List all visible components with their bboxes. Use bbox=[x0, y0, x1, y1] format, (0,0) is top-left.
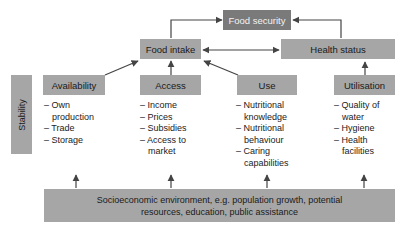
pillar-availability: Availability bbox=[43, 75, 105, 95]
utilisation-list: Quality of water Hygiene Health faciliti… bbox=[334, 100, 396, 158]
list-item: Trade bbox=[44, 123, 114, 135]
list-item: Quality of water bbox=[334, 100, 396, 123]
pillar-use: Use bbox=[237, 75, 297, 95]
pillar-access: Access bbox=[140, 75, 201, 95]
list-item: Nutritional behaviour bbox=[236, 123, 300, 146]
list-item: Storage bbox=[44, 135, 114, 147]
socioeconomic-environment-label: Socioeconomic environment, e.g. populati… bbox=[85, 194, 355, 218]
list-item: Subsidies bbox=[140, 123, 202, 135]
arrow-availability-to-intake bbox=[105, 61, 138, 75]
arrow-health-to-security bbox=[293, 20, 341, 38]
pillar-label: Use bbox=[259, 80, 276, 91]
availability-list: Own production Trade Storage bbox=[44, 100, 114, 146]
list-item: Hygiene bbox=[334, 123, 396, 135]
list-item: Access to market bbox=[140, 135, 202, 158]
stability-label: Stability bbox=[17, 99, 27, 131]
stability-bar: Stability bbox=[11, 75, 32, 154]
list-item: Income bbox=[140, 100, 202, 112]
list-item: Prices bbox=[140, 112, 202, 124]
food-intake-label: Food intake bbox=[146, 44, 196, 55]
food-intake-box: Food intake bbox=[140, 39, 201, 59]
pillar-label: Access bbox=[155, 80, 186, 91]
health-status-box: Health status bbox=[281, 39, 395, 59]
pillar-label: Utilisation bbox=[344, 80, 385, 91]
food-security-label: Food security bbox=[228, 15, 285, 26]
list-item: Health facilities bbox=[334, 135, 396, 158]
pillar-label: Availability bbox=[52, 80, 97, 91]
food-security-box: Food security bbox=[223, 10, 291, 30]
use-list: Nutritional knowledge Nutritional behavi… bbox=[236, 100, 300, 169]
list-item: Nutritional knowledge bbox=[236, 100, 300, 123]
health-status-label: Health status bbox=[310, 44, 365, 55]
pillar-utilisation: Utilisation bbox=[334, 75, 395, 95]
access-list: Income Prices Subsidies Access to market bbox=[140, 100, 202, 158]
list-item: Caring capabilities bbox=[236, 146, 300, 169]
arrow-use-to-intake bbox=[204, 61, 238, 75]
socioeconomic-environment-box: Socioeconomic environment, e.g. populati… bbox=[44, 189, 395, 222]
list-item: Own production bbox=[44, 100, 114, 123]
arrow-intake-to-security bbox=[171, 20, 222, 38]
